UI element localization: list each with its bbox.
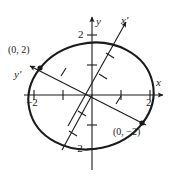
y-tick-label-neg2: −2 <box>71 143 83 154</box>
math-figure: y x x' y' −2 2 2 −2 (0, 2) (0, −2) <box>0 0 180 178</box>
point-label-0-neg2: (0, −2) <box>113 127 140 137</box>
y-axis <box>87 17 97 170</box>
point-label-0-2: (0, 2) <box>8 45 30 55</box>
figure-canvas <box>0 0 180 178</box>
y-axis-label: y <box>96 16 101 27</box>
x-tick-label-neg2: −2 <box>26 97 38 108</box>
y-prime-axis-label: y' <box>14 69 21 80</box>
y-tick-label-2: 2 <box>78 29 84 40</box>
x-prime-axis-label: x' <box>121 15 128 26</box>
point-marker-0-2 <box>37 65 42 70</box>
point-marker-0-neg2 <box>139 120 144 125</box>
x-tick-label-2: 2 <box>146 97 152 108</box>
x-axis-label: x <box>156 77 161 88</box>
